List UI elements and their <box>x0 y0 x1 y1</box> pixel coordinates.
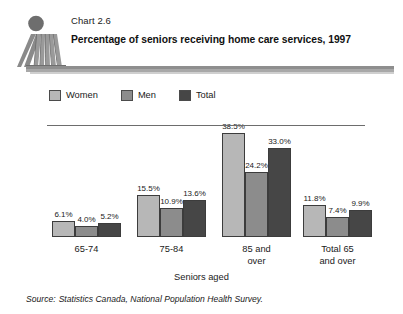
bar-women-65-74: 6.1% <box>52 221 75 237</box>
x-axis-baseline <box>47 125 365 126</box>
bar-rect <box>98 223 121 237</box>
bar-men-85-and-over: 24.2% <box>245 172 268 237</box>
bar-total-total-65-and-over: 9.9% <box>349 210 372 237</box>
header-divider-shadow <box>30 72 394 74</box>
legend-label-men: Men <box>138 90 156 101</box>
bar-rect <box>137 195 160 237</box>
bar-rect <box>303 205 326 237</box>
bar-rect <box>349 210 372 237</box>
bar-rect <box>268 148 291 237</box>
x-axis-label-line: Total 65 <box>293 243 382 255</box>
x-axis-label-line: 75-84 <box>127 243 216 255</box>
bar-value-label: 15.5% <box>137 184 160 193</box>
legend-swatch-men <box>121 90 133 101</box>
bar-women-total-65-and-over: 11.8% <box>303 205 326 237</box>
x-axis-label-65-74: 65-74 <box>42 243 131 255</box>
bar-value-label: 4.0% <box>77 215 95 224</box>
bar-value-label: 6.1% <box>54 210 72 219</box>
x-axis-label-75-84: 75-84 <box>127 243 216 255</box>
bar-value-label: 7.4% <box>328 206 346 215</box>
x-axis-label-line: and over <box>293 255 382 267</box>
bar-value-label: 38.5% <box>222 122 245 131</box>
bar-women-75-84: 15.5% <box>137 195 160 237</box>
x-axis-label-line: 85 and <box>212 243 301 255</box>
bar-rect <box>52 221 75 237</box>
legend-swatch-women <box>49 90 61 101</box>
bar-value-label: 13.6% <box>183 189 206 198</box>
legend-label-total: Total <box>196 90 216 101</box>
bar-total-75-84: 13.6% <box>183 200 206 237</box>
bar-value-label: 10.9% <box>160 197 183 206</box>
bar-men-65-74: 4.0% <box>75 226 98 237</box>
bar-rect <box>245 172 268 237</box>
bar-rect <box>222 133 245 237</box>
page-title: Percentage of seniors receiving home car… <box>71 33 391 47</box>
bar-men-75-84: 10.9% <box>160 208 183 237</box>
bar-rect <box>183 200 206 237</box>
legend-label-women: Women <box>66 90 98 101</box>
bar-value-label: 24.2% <box>245 161 268 170</box>
bar-value-label: 33.0% <box>268 137 291 146</box>
bar-total-85-and-over: 33.0% <box>268 148 291 237</box>
bar-rect <box>75 226 98 237</box>
legend-swatch-total <box>179 90 191 101</box>
bar-men-total-65-and-over: 7.4% <box>326 217 349 237</box>
chart-header: Chart 2.6 Percentage of seniors receivin… <box>0 0 403 80</box>
bar-rect <box>160 208 183 237</box>
statistics-canada-figure-logo-icon <box>17 15 67 70</box>
bar-value-label: 11.8% <box>303 194 325 203</box>
header-text-block: Chart 2.6 Percentage of seniors receivin… <box>71 14 391 47</box>
chart-number: Chart 2.6 <box>71 14 391 27</box>
bar-chart-plot-area: 6.1%4.0%5.2%15.5%10.9%13.6%38.5%24.2%33.… <box>0 112 403 239</box>
legend-item-women: Women <box>49 90 98 101</box>
bar-total-65-74: 5.2% <box>98 223 121 237</box>
x-axis-title: Seniors aged <box>0 272 403 282</box>
x-axis-category-labels: 65-7475-8485 andoverTotal 65and over <box>0 243 403 273</box>
legend-item-men: Men <box>121 90 156 101</box>
bar-women-85-and-over: 38.5% <box>222 133 245 237</box>
bar-value-label: 9.9% <box>351 199 369 208</box>
x-axis-label-line: 65-74 <box>42 243 131 255</box>
x-axis-label-85-and-over: 85 andover <box>212 243 301 267</box>
bar-rect <box>326 217 349 237</box>
bar-value-label: 5.2% <box>100 212 118 221</box>
x-axis-label-line: over <box>212 255 301 267</box>
legend-item-total: Total <box>179 90 216 101</box>
source-label: Source: <box>26 294 56 304</box>
chart-legend: Women Men Total <box>49 90 216 101</box>
source-text: Statistics Canada, National Population H… <box>59 294 263 304</box>
source-note: Source:Statistics Canada, National Popul… <box>26 294 263 304</box>
x-axis-label-total-65-and-over: Total 65and over <box>293 243 382 267</box>
